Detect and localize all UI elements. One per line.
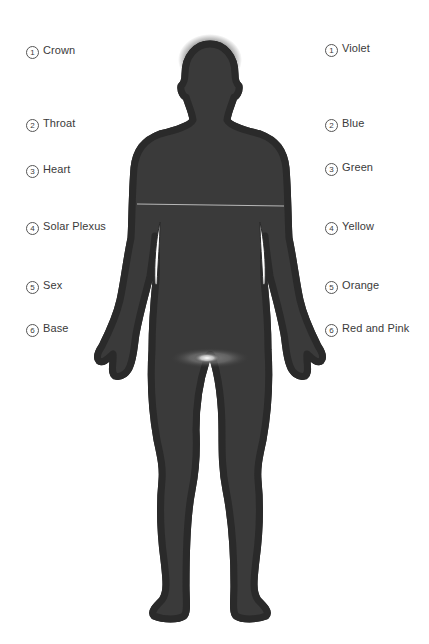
body-silhouette — [98, 44, 323, 619]
body-figure — [0, 0, 429, 644]
white-outline — [98, 44, 323, 619]
base-chakra-glow — [194, 353, 220, 363]
